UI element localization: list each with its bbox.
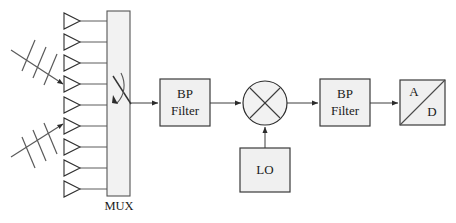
mux-block[interactable] xyxy=(107,11,131,196)
antenna-element-2 xyxy=(64,34,107,50)
diagram-canvas: MUX BP Filter LO BP Filte xyxy=(0,0,456,223)
local-oscillator-block[interactable]: LO xyxy=(240,148,290,192)
antenna-element-7 xyxy=(64,139,107,155)
antenna-element-4 xyxy=(64,76,107,92)
antenna-element-3 xyxy=(64,55,107,71)
adc-block[interactable]: A D xyxy=(400,80,445,125)
antenna-array xyxy=(64,13,107,197)
bp-filter-2-line1: BP xyxy=(337,86,353,101)
mixer-block[interactable] xyxy=(243,81,287,125)
mux-label: MUX xyxy=(104,199,133,213)
antenna-element-1 xyxy=(64,13,107,29)
bp-filter-1[interactable]: BP Filter xyxy=(160,79,210,126)
antenna-element-8 xyxy=(64,160,107,176)
bp-filter-2-line2: Filter xyxy=(331,103,360,118)
antenna-element-6 xyxy=(64,118,107,134)
adc-label-digital: D xyxy=(427,104,436,119)
rf-receiver-block-diagram: MUX BP Filter LO BP Filte xyxy=(0,0,456,223)
bp-filter-1-line1: BP xyxy=(177,86,193,101)
antenna-element-9 xyxy=(64,181,107,197)
incoming-wave-lower xyxy=(11,123,63,168)
bp-filter-1-line2: Filter xyxy=(171,103,200,118)
antenna-element-5 xyxy=(64,97,107,113)
lo-label: LO xyxy=(256,162,273,177)
bp-filter-2[interactable]: BP Filter xyxy=(320,79,370,126)
adc-label-analog: A xyxy=(409,84,419,99)
incoming-wave-upper xyxy=(11,40,63,85)
